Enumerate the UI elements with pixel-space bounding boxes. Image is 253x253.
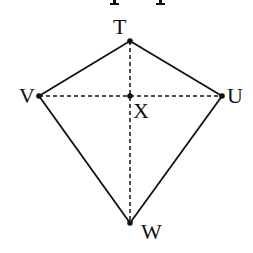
vertex-t-point (127, 38, 133, 44)
vertex-w-point (127, 220, 133, 226)
label-w: W (141, 221, 162, 243)
intersection-x-point (127, 93, 133, 99)
kite-diagram: T U W V X (0, 0, 253, 253)
label-v: V (19, 85, 35, 107)
vertex-v-point (36, 93, 42, 99)
label-x: X (133, 100, 149, 122)
kite-figure (0, 0, 253, 253)
label-t: T (113, 16, 126, 38)
label-u: U (227, 85, 243, 107)
vertex-u-point (219, 93, 225, 99)
